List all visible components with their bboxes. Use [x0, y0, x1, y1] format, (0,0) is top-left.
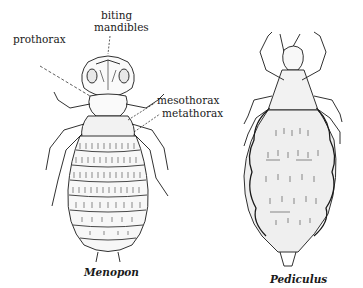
louse-comparison-diagram: biting mandibles prothorax mesothorax me… [0, 0, 363, 288]
label-mesothorax: mesothorax [157, 95, 219, 106]
label-prothorax: prothorax [13, 34, 66, 45]
caption-menopon: Menopon [84, 266, 139, 278]
label-biting: biting [101, 10, 132, 21]
caption-pediculus: Pediculus [270, 273, 327, 285]
pediculus-drawing [244, 32, 342, 266]
menopon-drawing [40, 36, 168, 262]
label-metathorax: metathorax [162, 108, 223, 119]
label-mandibles: mandibles [94, 22, 149, 33]
